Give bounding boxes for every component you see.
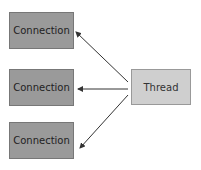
thread-node: Thread — [131, 69, 191, 105]
connection-label-3: Connection — [13, 135, 70, 146]
connection-node-1: Connection — [9, 12, 74, 49]
connection-node-3: Connection — [9, 122, 74, 159]
arrow-to-connection-3 — [80, 95, 128, 148]
thread-label: Thread — [144, 82, 179, 93]
arrow-to-connection-1 — [76, 32, 128, 82]
connection-label-2: Connection — [13, 82, 70, 93]
connection-label-1: Connection — [13, 25, 70, 36]
connection-node-2: Connection — [9, 69, 74, 106]
